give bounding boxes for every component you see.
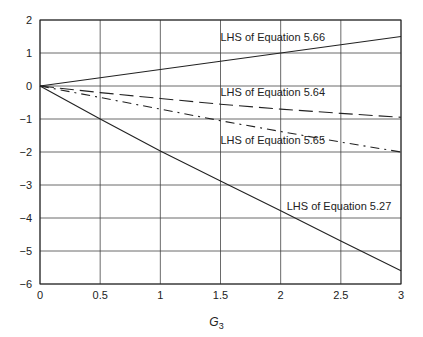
x-axis-label-subscript: 3	[219, 321, 224, 331]
y-tick-label: −6	[19, 278, 32, 290]
y-tick-label: −3	[19, 179, 32, 191]
x-axis-ticks: 00.511.522.53	[37, 289, 404, 301]
x-tick-label: 2	[278, 289, 284, 301]
series-annotation: LHS of Equation 5.27	[287, 200, 392, 212]
x-tick-label: 3	[398, 289, 404, 301]
series-annotation: LHS of Equation 5.66	[221, 31, 326, 43]
series-annotation: LHS of Equation 5.64	[221, 86, 326, 98]
x-tick-label: 1	[157, 289, 163, 301]
y-tick-label: 0	[26, 80, 32, 92]
x-tick-label: 0	[37, 289, 43, 301]
y-tick-label: −2	[19, 146, 32, 158]
x-tick-label: 2.5	[333, 289, 348, 301]
line-chart: 210−1−2−3−4−5−6 00.511.522.53 LHS of Equ…	[0, 0, 423, 337]
x-tick-label: 0.5	[93, 289, 108, 301]
x-tick-label: 1.5	[213, 289, 228, 301]
y-axis-ticks: 210−1−2−3−4−5−6	[19, 14, 32, 290]
x-axis-label-main: G	[209, 315, 218, 329]
y-tick-label: 2	[26, 14, 32, 26]
y-tick-label: −4	[19, 212, 32, 224]
y-tick-label: 1	[26, 47, 32, 59]
y-tick-label: −1	[19, 113, 32, 125]
x-axis-label: G3	[209, 315, 223, 331]
y-tick-label: −5	[19, 245, 32, 257]
series-annotation: LHS of Equation 5.65	[221, 134, 326, 146]
